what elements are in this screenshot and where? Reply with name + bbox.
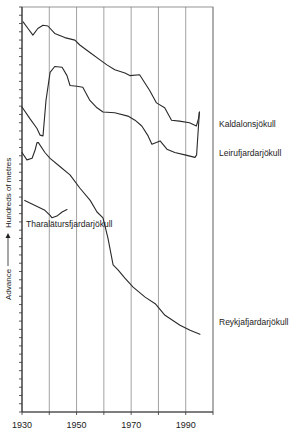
gridlines bbox=[22, 7, 213, 412]
series-label-reykjafjardarjokull: Reykjafjardarjökull bbox=[219, 317, 289, 327]
y-axis-label: Advance Hundreds of metres bbox=[4, 158, 13, 300]
series-line-tharal-tursfjardarj-kull bbox=[25, 200, 67, 217]
y-axis-label-advance: Advance bbox=[4, 268, 13, 300]
series-line-reykjafjardarj-kull bbox=[22, 143, 200, 335]
x-tick-label-1970: 1970 bbox=[121, 420, 141, 430]
x-tick-label-1990: 1990 bbox=[176, 420, 196, 430]
series-label-kaldalonsjokull: Kaldalonsjökull bbox=[219, 119, 276, 129]
y-axis-label-hundreds-of-metres: Hundreds of metres bbox=[4, 158, 13, 228]
series-lines bbox=[22, 22, 200, 334]
series-line-leirufjardarj-kull bbox=[22, 67, 199, 158]
x-tick-label-1930: 1930 bbox=[12, 420, 32, 430]
y-axis-arrow-icon bbox=[6, 233, 11, 238]
glacier-advance-chart: 1930195019701990 Kaldalonsjökull Leirufj… bbox=[0, 0, 298, 434]
series-label-leirufjardarjokull: Leirufjardarjökull bbox=[219, 148, 281, 158]
axes bbox=[19, 7, 213, 415]
x-tick-labels: 1930195019701990 bbox=[12, 420, 196, 430]
series-label-tharalatursfjardarjokull: Tharalätursfjardarjökull bbox=[26, 219, 113, 229]
plot-frame bbox=[22, 7, 213, 412]
x-tick-label-1950: 1950 bbox=[67, 420, 87, 430]
